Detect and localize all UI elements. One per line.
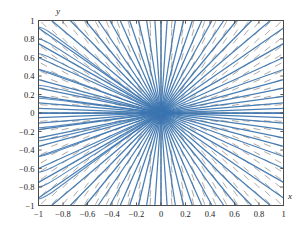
x-tick-label: 0.4 xyxy=(205,210,216,219)
y-tick-label: 1 xyxy=(4,16,35,25)
y-tick-label: 0.4 xyxy=(4,72,35,81)
x-tick-label: 0.2 xyxy=(180,210,191,219)
y-tick-label: −1 xyxy=(4,201,35,210)
y-tick-label: 0.8 xyxy=(4,35,35,44)
x-tick-label: 0.8 xyxy=(254,210,265,219)
phase-portrait-plot xyxy=(0,0,306,231)
y-tick-label: −0.4 xyxy=(4,146,35,155)
x-tick-label: −0.8 xyxy=(55,210,70,219)
y-tick-label: 0.2 xyxy=(4,90,35,99)
x-axis-label: x xyxy=(288,192,292,201)
x-tick-label: −0.6 xyxy=(80,210,95,219)
y-tick-label: −0.6 xyxy=(4,164,35,173)
y-tick-label: −0.8 xyxy=(4,183,35,192)
x-tick-label: −0.2 xyxy=(129,210,144,219)
y-tick-label: −0.2 xyxy=(4,127,35,136)
x-tick-label: −1 xyxy=(34,210,43,219)
equilibrium-point xyxy=(159,111,162,114)
x-tick-label: 0 xyxy=(159,210,163,219)
y-axis-label: y xyxy=(56,7,60,16)
figure-panel: y x −1−0.8−0.6−0.4−0.200.20.40.60.81 −1−… xyxy=(0,0,306,231)
x-tick-label: 1 xyxy=(281,210,285,219)
y-tick-label: 0 xyxy=(4,109,35,118)
x-tick-label: −0.4 xyxy=(104,210,119,219)
y-tick-label: 0.6 xyxy=(4,53,35,62)
x-tick-label: 0.6 xyxy=(229,210,240,219)
